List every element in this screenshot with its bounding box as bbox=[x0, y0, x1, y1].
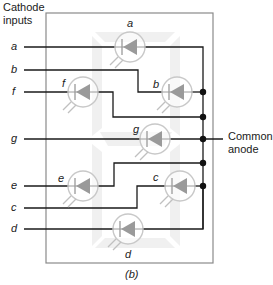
input-label-f: f bbox=[12, 86, 15, 97]
input-label-c: c bbox=[11, 202, 17, 213]
common-anode-label-line1: Common bbox=[228, 131, 273, 142]
led-label-e: e bbox=[58, 173, 64, 184]
led-g-icon bbox=[135, 124, 170, 160]
led-label-c: c bbox=[153, 172, 159, 183]
led-label-b: b bbox=[153, 79, 159, 90]
input-label-a: a bbox=[11, 41, 17, 52]
input-label-e: e bbox=[11, 180, 17, 191]
input-label-d: d bbox=[11, 223, 17, 234]
cathode-inputs-label-line1: Cathode bbox=[3, 2, 45, 13]
cathode-inputs-label-line2: inputs bbox=[3, 15, 32, 26]
led-label-d: d bbox=[125, 249, 131, 260]
led-label-f: f bbox=[62, 78, 65, 89]
input-label-g: g bbox=[11, 133, 17, 144]
led-label-g: g bbox=[133, 124, 139, 135]
input-label-b: b bbox=[11, 64, 17, 75]
led-label-a: a bbox=[127, 18, 133, 29]
common-anode-label-line2: anode bbox=[228, 144, 259, 155]
figure-caption: (b) bbox=[125, 268, 138, 280]
